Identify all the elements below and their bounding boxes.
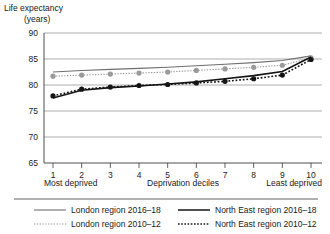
- series-line: [53, 60, 311, 96]
- data-point: [194, 68, 199, 73]
- legend-label-northeast-2016: North East region 2016–18: [215, 205, 317, 215]
- x-tick-label-7: 7: [223, 170, 228, 180]
- series-2: [53, 57, 311, 98]
- legend-label-london-2016: London region 2016–18: [71, 205, 161, 215]
- data-point: [308, 57, 313, 62]
- legend-label-northeast-2010: North East region 2010–12: [215, 219, 317, 229]
- y-tick-90: 90: [29, 28, 39, 38]
- x-axis-label: Deprivation deciles: [147, 178, 219, 188]
- data-point: [165, 69, 170, 74]
- data-point: [222, 66, 227, 71]
- data-series-layer: [50, 55, 313, 98]
- data-point: [136, 83, 141, 88]
- data-point: [222, 79, 227, 84]
- chart-title-line2: (years): [24, 14, 51, 24]
- y-tick-80: 80: [29, 80, 39, 90]
- data-point: [251, 65, 256, 70]
- x-tick-marks: [53, 163, 311, 168]
- data-point: [194, 80, 199, 85]
- y-tick-75: 75: [29, 106, 39, 116]
- legend: London region 2016–18 North East region …: [34, 205, 317, 229]
- data-point: [136, 70, 141, 75]
- life-expectancy-deprivation-chart: Life expectancy (years) 90 85 80 75 70 6…: [0, 0, 330, 234]
- data-point: [108, 71, 113, 76]
- data-point: [50, 93, 55, 98]
- data-point: [165, 82, 170, 87]
- data-point: [79, 73, 84, 78]
- x-tick-label-3: 3: [108, 170, 113, 180]
- y-tick-85: 85: [29, 54, 39, 64]
- series-line: [53, 56, 311, 72]
- data-point: [280, 63, 285, 68]
- chart-title-line1: Life expectancy: [4, 3, 64, 13]
- y-tick-labels: 90 85 80 75 70 65: [29, 28, 39, 168]
- data-point: [280, 73, 285, 78]
- x-tick-label-4: 4: [137, 170, 142, 180]
- data-point: [79, 87, 84, 92]
- y-tick-70: 70: [29, 132, 39, 142]
- series-0: [53, 56, 311, 72]
- y-tick-65: 65: [29, 158, 39, 168]
- data-point: [50, 74, 55, 79]
- data-point: [251, 76, 256, 81]
- series-3: [50, 57, 313, 99]
- x-tick-label-8: 8: [251, 170, 256, 180]
- data-point: [108, 84, 113, 89]
- x-label-most-deprived: Most deprived: [44, 178, 98, 188]
- legend-label-london-2010: London region 2010–12: [71, 219, 161, 229]
- x-label-least-deprived: Least deprived: [266, 178, 322, 188]
- gridlines: [44, 33, 322, 137]
- series-line: [53, 57, 311, 98]
